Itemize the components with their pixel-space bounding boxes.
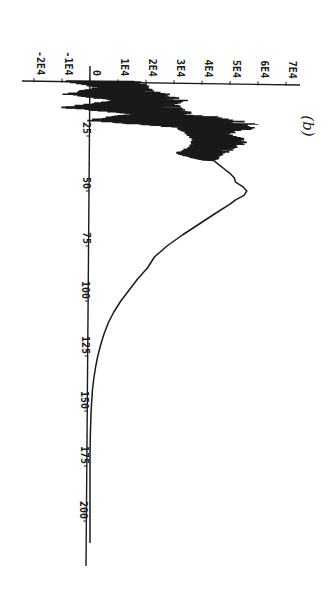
- x-tick-label: 200: [78, 501, 89, 519]
- value-tick-label: 2E4: [147, 59, 158, 77]
- signal-curve: [90, 160, 247, 543]
- rotated-line-chart: -2E4-1E401E42E43E44E45E46E47E42550751001…: [0, 0, 333, 591]
- value-tick-label: -1E4: [63, 51, 74, 75]
- value-tick-label: -2E4: [35, 51, 46, 75]
- value-tick-label: 3E4: [175, 59, 186, 77]
- value-tick-label: 0: [91, 70, 102, 76]
- x-tick-label: 100: [80, 281, 91, 299]
- value-tick-label: 6E4: [259, 60, 270, 78]
- value-tick-label: 7E4: [287, 61, 298, 79]
- x-tick-label: 150: [79, 391, 90, 409]
- x-tick-label: 175: [79, 446, 90, 464]
- value-tick-label: 4E4: [203, 60, 214, 78]
- x-tick-label: 50: [81, 177, 92, 189]
- axes: [22, 66, 300, 566]
- x-tick-label: 25: [81, 122, 92, 134]
- panel-label: (b): [299, 115, 317, 136]
- value-tick-label: 5E4: [231, 60, 242, 78]
- x-tick-label: 125: [80, 336, 91, 354]
- data-series: [61, 81, 258, 543]
- x-tick-label: 75: [81, 232, 92, 244]
- oscillation-stroke: [202, 160, 213, 161]
- value-tick-label: 1E4: [119, 58, 130, 76]
